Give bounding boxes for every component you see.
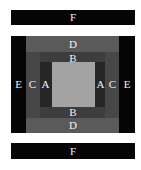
top-bar-f: F: [11, 10, 135, 25]
label-c-left: C: [26, 79, 39, 90]
label-d-top: D: [61, 39, 85, 50]
label-e-right: E: [119, 79, 135, 90]
label-e-left: E: [12, 79, 25, 90]
label-c-right: C: [106, 79, 119, 90]
label-b-bottom: B: [61, 107, 85, 118]
bottom-bar-label: F: [11, 146, 135, 157]
label-d-bottom: D: [61, 120, 85, 131]
label-b-top: B: [61, 53, 85, 64]
top-bar-label: F: [11, 12, 135, 23]
label-a-left: A: [39, 79, 52, 90]
bottom-bar-f: F: [11, 143, 135, 159]
center-square: [52, 62, 95, 107]
nested-square-diagram: D B E C A A C E B D: [11, 36, 135, 133]
label-a-right: A: [95, 79, 106, 90]
